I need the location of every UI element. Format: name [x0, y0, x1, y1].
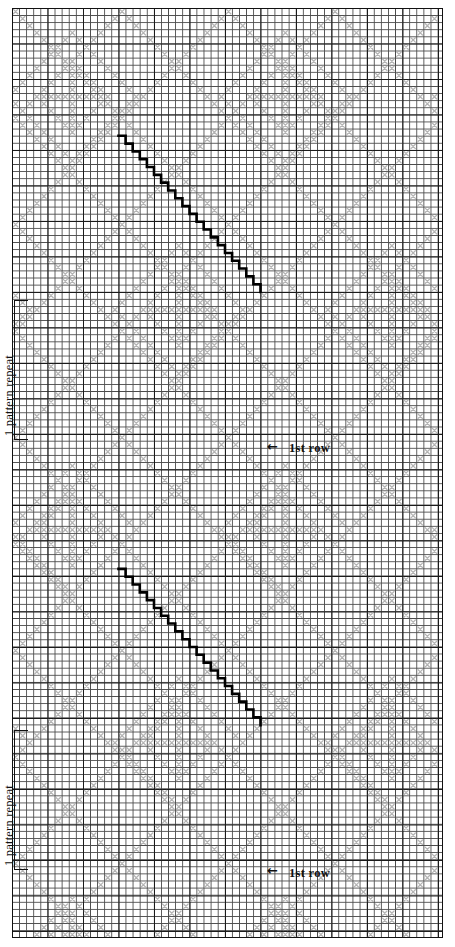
chart-page: 1 pattern repeat 1 pattern repeat ← 1st …: [0, 0, 455, 947]
row-marker-label-lower: 1st row: [289, 866, 330, 881]
pattern-repeat-label-upper: 1 pattern repeat: [2, 355, 17, 436]
left-arrow-icon-lower: ←: [267, 864, 278, 877]
pattern-repeat-label-lower: 1 pattern repeat: [2, 785, 17, 866]
bold-decrease-lines: [12, 8, 443, 938]
row-marker-label-upper: 1st row: [289, 441, 330, 456]
left-arrow-icon-upper: ←: [267, 440, 278, 453]
knitting-chart-grid: [12, 8, 443, 938]
